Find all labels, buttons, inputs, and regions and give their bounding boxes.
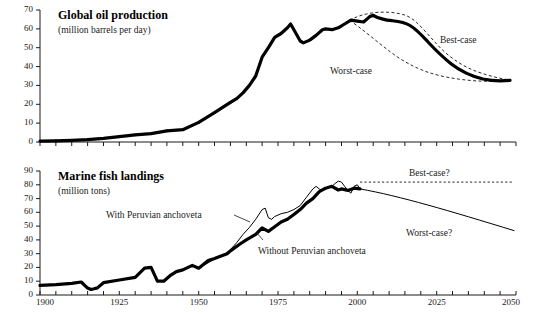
oil-data-markers: [55, 101, 232, 142]
fish-xtick-1950: 1950: [190, 297, 209, 307]
fish-ytick-10: 10: [24, 275, 34, 285]
oil-projection-curve: [373, 16, 510, 81]
fish-ytick-0: 0: [29, 289, 34, 299]
oil-best-case-label: Best-case: [440, 35, 476, 45]
chart-global-oil-production: 0 10 20 30 40 50 60 70: [24, 4, 516, 146]
fish-best-case-label: Best-case?: [409, 168, 450, 178]
fish-worst-case-line: [360, 189, 514, 231]
fish-ytick-60: 60: [24, 206, 34, 216]
fish-ytick-20: 20: [24, 261, 34, 271]
fish-x-ticks: [40, 291, 516, 295]
fish-xtick-2025: 2025: [428, 297, 447, 307]
oil-y-ticks: 0 10 20 30 40 50 60 70: [24, 4, 40, 146]
oil-ytick-0: 0: [29, 136, 34, 146]
oil-ytick-30: 30: [24, 79, 34, 89]
oil-ytick-50: 50: [24, 42, 34, 52]
fish-with-anchoveta-label: With Peruvian anchoveta: [106, 210, 202, 220]
two-panel-line-chart: 0 10 20 30 40 50 60 70: [0, 0, 537, 325]
fish-ytick-70: 70: [24, 193, 34, 203]
fish-ytick-90: 90: [24, 165, 34, 175]
oil-chart-title: Global oil production: [58, 8, 168, 22]
fish-without-anchoveta-label: Without Peruvian anchoveta: [258, 246, 367, 256]
oil-ytick-10: 10: [24, 117, 34, 127]
fish-xtick-1900: 1900: [36, 297, 55, 307]
fish-xtick-2000: 2000: [348, 297, 367, 307]
oil-worst-case-curve: [350, 20, 510, 81]
fish-xtick-1925: 1925: [110, 297, 129, 307]
figure-root: 0 10 20 30 40 50 60 70: [0, 0, 537, 325]
fish-worst-case-label: Worst-case?: [406, 228, 452, 238]
fish-chart-subtitle: (million tons): [58, 186, 110, 197]
fish-ytick-50: 50: [24, 220, 34, 230]
fish-ytick-80: 80: [24, 179, 34, 189]
fish-without-anchoveta-curve: [40, 186, 360, 289]
without-anchoveta-leader: [256, 232, 263, 240]
oil-x-ticks: [40, 142, 516, 146]
fish-xtick-1975: 1975: [269, 297, 288, 307]
oil-ytick-20: 20: [24, 98, 34, 108]
oil-ytick-60: 60: [24, 23, 34, 33]
oil-worst-case-label: Worst-case: [330, 66, 372, 76]
fish-ytick-40: 40: [24, 234, 34, 244]
oil-chart-subtitle: (million barrels per day): [58, 25, 151, 36]
fish-y-ticks: 0 10 20 30 40 50 60 70 80 90: [24, 165, 40, 299]
with-anchoveta-leader: [234, 215, 250, 222]
fish-chart-title: Marine fish landings: [58, 169, 164, 183]
fish-x-labels: 1900 1925 1950 1975 2000 2025 2050: [36, 297, 521, 307]
fish-ytick-30: 30: [24, 248, 34, 258]
oil-ytick-40: 40: [24, 61, 34, 71]
oil-ytick-70: 70: [24, 4, 34, 14]
fish-xtick-2050: 2050: [502, 297, 521, 307]
chart-marine-fish-landings: 0 10 20 30 40 50 60 70 80 90: [24, 165, 521, 307]
